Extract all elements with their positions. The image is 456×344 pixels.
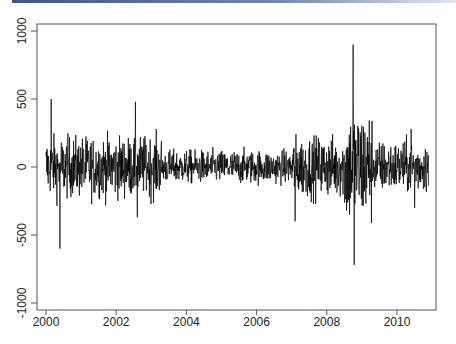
y-tick-label: -1000 <box>15 287 29 318</box>
y-tick-label: 1000 <box>15 17 29 44</box>
y-tick-label: 500 <box>15 89 29 109</box>
y-axis: 10005000-500-1000 <box>15 17 37 318</box>
x-tick-label: 2010 <box>384 315 411 329</box>
x-tick-label: 2008 <box>313 315 340 329</box>
x-tick-label: 2000 <box>33 315 60 329</box>
chart: 10005000-500-1000 2000200220042006200820… <box>0 0 456 344</box>
x-tick-label: 2006 <box>243 315 270 329</box>
x-axis: 200020022004200620082010 <box>33 310 411 329</box>
y-tick-label: -500 <box>15 223 29 247</box>
x-tick-label: 2002 <box>103 315 130 329</box>
x-tick-label: 2004 <box>173 315 200 329</box>
y-tick-label: 0 <box>15 163 29 170</box>
